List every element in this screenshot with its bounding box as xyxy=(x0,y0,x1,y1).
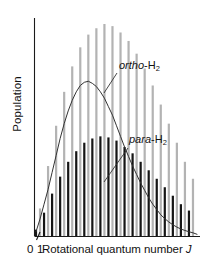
x-axis-label-variable: J xyxy=(186,243,192,255)
bar xyxy=(160,105,162,236)
series-label-ortho: ortho-H2 xyxy=(119,59,160,71)
bar xyxy=(99,136,101,236)
ortho-label-subscript: 2 xyxy=(156,64,160,73)
bar xyxy=(144,69,146,236)
bar xyxy=(55,126,57,236)
bar xyxy=(95,28,97,236)
bar xyxy=(71,66,73,236)
para-label-rest: -H xyxy=(151,133,163,145)
bar xyxy=(75,151,77,236)
bar xyxy=(123,147,125,236)
bar xyxy=(63,92,65,236)
bar xyxy=(47,166,49,236)
bar xyxy=(67,162,69,236)
bar xyxy=(152,85,154,236)
bar xyxy=(79,47,81,236)
x-tick-label-0: 0 xyxy=(27,243,33,255)
bar xyxy=(83,143,85,236)
x-axis-label: Rotational quantum number J xyxy=(42,243,192,255)
bar xyxy=(164,187,166,236)
bar xyxy=(192,179,194,236)
bar xyxy=(168,124,170,236)
series-label-para: para-H2 xyxy=(129,133,167,145)
bar xyxy=(156,179,158,236)
bar xyxy=(43,213,45,236)
bar xyxy=(103,24,105,236)
chart-plot-area xyxy=(0,0,204,266)
chart-figure: Population 0 1 Rotational quantum number… xyxy=(0,0,204,266)
bar xyxy=(111,26,113,236)
bar xyxy=(172,196,174,236)
y-axis-label: Population xyxy=(11,49,23,159)
bar xyxy=(107,137,109,236)
bar xyxy=(180,204,182,236)
bar xyxy=(87,35,89,236)
bar xyxy=(115,141,117,236)
ortho-label-rest: -H xyxy=(144,59,156,71)
bar xyxy=(176,143,178,236)
bar xyxy=(148,170,150,236)
ortho-label-italic: ortho xyxy=(119,59,144,71)
bar xyxy=(59,177,61,236)
bar xyxy=(91,138,93,236)
bar xyxy=(184,162,186,236)
x-axis-label-text: Rotational quantum number xyxy=(42,243,183,255)
ortho-leader-line xyxy=(104,73,117,93)
para-label-italic: para xyxy=(129,133,151,145)
para-label-subscript: 2 xyxy=(163,138,167,147)
bar xyxy=(51,194,53,236)
bar xyxy=(140,162,142,236)
